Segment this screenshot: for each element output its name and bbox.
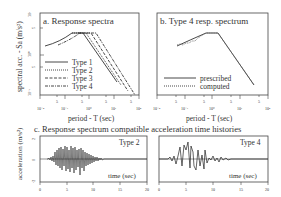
panel-c-left-xtick-1: 5 (66, 187, 68, 192)
panel-b-xminor-3: 5 (230, 99, 232, 104)
series-type-2-accel (47, 146, 147, 175)
panel-a-xminor-3: 5 (105, 99, 107, 104)
panel-c-left-label: Type 2 (119, 138, 140, 147)
panel-b-legend (164, 78, 196, 86)
panel-a-xminor-4: 5 (130, 99, 132, 104)
panel-c-right-xtick-2: 10 (211, 187, 215, 192)
panel-a-ytick-top: 10¹ (27, 11, 32, 17)
panel-c-right-xtick-1: 5 (185, 187, 187, 192)
panel-c-left-xtick-2: 10 (91, 187, 95, 192)
panel-c-left-xtick-3: 15 (118, 187, 122, 192)
panel-c-ylabel: acceleration (m/s²) (16, 127, 24, 180)
panel-c-left-xtick-4: 20 (145, 187, 149, 192)
panel-a-ytick-bot: 10⁻¹ (27, 88, 32, 96)
panel-c-right-xtick-0: 0 (158, 187, 160, 192)
panel-b-xtick-3: 10¹ (237, 106, 243, 111)
panel-a-ylabel: spectral acc. - Sa (m/s²) (15, 21, 24, 92)
panel-c-right-label: Type 4 (240, 138, 261, 147)
panel-c-ytick-bot: -2 (31, 180, 36, 183)
legend-computed: computed (200, 82, 230, 91)
panel-a-yminor-2: 5 (31, 66, 36, 68)
panel-c-time-histories: c. Response spectrum compatible accelera… (16, 124, 269, 192)
panel-b-type4-spectrum: b. Type 4 resp. spectrum prescribed comp… (153, 13, 271, 123)
panel-a-xtick-3: 10¹ (111, 106, 117, 111)
panel-c-left-xtick-0: 0 (39, 187, 41, 192)
panel-c-right-xtick-4: 20 (265, 187, 269, 192)
panel-a-xlabel: period - T (sec) (68, 114, 115, 123)
panel-b-xminor-2: 5 (203, 99, 205, 104)
panel-c-right-xtick-3: 15 (239, 187, 243, 192)
panel-b-xminor-4: 5 (258, 99, 260, 104)
panel-a-xtick-4: 10² (136, 106, 142, 111)
panel-a-yminor-1: 5 (31, 27, 36, 29)
panel-a-xminor-1: 5 (56, 99, 58, 104)
panel-b-xtick-2: 10⁰ (209, 106, 215, 111)
panel-b-xlabel: period - T (sec) (186, 114, 233, 123)
panel-a-xtick-2: 10⁰ (86, 106, 92, 111)
legend-type-4: Type 4 (72, 82, 93, 91)
panel-c-title: c. Response spectrum compatible accelera… (34, 124, 242, 134)
panel-c-ytick-top: 2 (31, 138, 36, 140)
panel-b-xminor-1: 5 (175, 99, 177, 104)
panel-a-legend (45, 62, 68, 86)
panel-a-ytick-mid: 10⁰ (27, 51, 32, 57)
panel-c-left-xlabel: time (sec) (108, 172, 136, 180)
panel-b-xtick-1: 10⁻¹ (181, 106, 189, 111)
panel-b-xtick-0: 10⁻² (153, 106, 161, 111)
panel-b-title: b. Type 4 resp. spectrum (160, 16, 248, 26)
panel-b-xtick-4: 10² (265, 106, 271, 111)
panel-c-right-xlabel: time (sec) (229, 172, 257, 180)
panel-c-ytick-mid: 0 (31, 159, 36, 161)
panel-a-xtick-1: 10⁻¹ (61, 106, 69, 111)
panel-a-xminor-2: 5 (81, 99, 83, 104)
panel-a-response-spectra: a. Response spectra spectral acc. - Sa (… (15, 11, 142, 123)
panel-a-title: a. Response spectra (43, 16, 114, 26)
panel-a-xtick-0: 10⁻² (37, 106, 45, 111)
